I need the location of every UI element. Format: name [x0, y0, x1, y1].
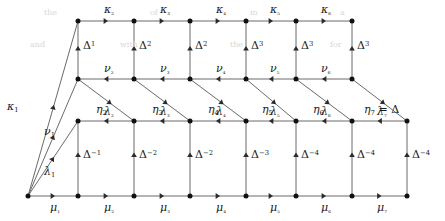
label-kappa-5: κ₅: [270, 4, 280, 17]
node-lambda-6: [350, 119, 355, 124]
node-nu-1: [76, 77, 81, 82]
label-delta-lower-6: Δ−4: [357, 149, 375, 160]
label-eta-3: η3: [152, 104, 163, 117]
bleed-text-0: the: [44, 8, 57, 17]
arrowhead-lambda-5: [269, 118, 273, 124]
arrowhead-delta-upper-3: [187, 46, 193, 50]
label-nu-3: ν₃: [160, 63, 169, 76]
label-kappa-3: κ₃: [160, 4, 170, 17]
label-mu-3: μ₃: [160, 202, 170, 215]
arrowhead-kappa-4: [216, 18, 220, 24]
arrowhead-delta-upper-1: [75, 46, 81, 50]
node-nu-4: [244, 77, 249, 82]
label-mu-5: μ₅: [270, 202, 280, 215]
node-lambda-2: [132, 119, 137, 124]
label-mu-6: μ₆: [321, 202, 331, 215]
label-mu-1: μ₁: [50, 202, 60, 215]
bleed-text-6: the: [230, 40, 243, 49]
label-nu-2: ν₂: [104, 63, 113, 76]
node-kappa-2: [132, 19, 137, 24]
arrowhead-delta-lower-5: [293, 153, 299, 157]
label-delta-lower-7: Δ−4: [412, 149, 430, 160]
node-lambda-4: [244, 119, 249, 124]
arrowhead-kappa-3: [160, 18, 164, 24]
node-lambda-1: [76, 119, 81, 124]
arrowhead-delta-upper-6: [349, 46, 355, 50]
arrowhead-nu-5: [269, 76, 273, 82]
label-delta-upper-3: Δ2: [195, 40, 207, 51]
label-delta-lower-3: Δ−2: [195, 149, 213, 160]
arrowhead-delta-lower-1: [75, 153, 81, 157]
label-kappa-4: κ₄: [216, 4, 226, 17]
arrowhead-nu-4: [216, 76, 220, 82]
arrowhead-mu-7: [377, 193, 381, 199]
node-lambda-7: [405, 119, 410, 124]
node-mu-5: [294, 194, 299, 199]
arrowhead-kappa-2: [104, 18, 108, 24]
node-nu-3: [188, 77, 193, 82]
label-mu-4: μ₄: [216, 202, 226, 215]
label-delta-upper-1: Δ1: [83, 40, 95, 51]
node-kappa-3: [188, 19, 193, 24]
arrowhead-mu-4: [216, 193, 220, 199]
label-delta-lower-5: Δ−4: [301, 149, 319, 160]
label-eta-4: η4: [208, 104, 219, 117]
node-mu-4: [244, 194, 249, 199]
label-eta-7: η7 = Δ: [364, 104, 399, 117]
label-eta-2: η2: [96, 104, 107, 117]
arrowhead-delta-lower-2: [131, 153, 137, 157]
bleed-text-4: and: [30, 40, 45, 49]
arrowhead-kappa-5: [269, 18, 273, 24]
arrowhead-delta-upper-5: [293, 46, 299, 50]
arrowhead-lambda-7: [378, 118, 382, 124]
label-mu-2: μ₂: [104, 202, 114, 215]
node-mu-2: [132, 194, 137, 199]
label-delta-upper-2: Δ2: [139, 40, 151, 51]
node-mu-6: [350, 194, 355, 199]
bleed-text-2: in: [250, 8, 258, 17]
arrowhead-lambda-2: [104, 118, 108, 124]
label-delta-lower-2: Δ−2: [139, 149, 157, 160]
node-lambda-3: [188, 119, 193, 124]
arrowhead-delta-lower-7: [404, 153, 410, 157]
arrowhead-mu-3: [160, 193, 164, 199]
arrowhead-edge-kappa-1: [50, 104, 57, 110]
bleed-text-3: a: [340, 8, 345, 17]
arrowhead-edge-lambda-1: [49, 155, 56, 162]
node-kappa-1: [76, 19, 81, 24]
arrowhead-lambda-3: [160, 118, 164, 124]
arrowhead-mu-2: [104, 193, 108, 199]
arrowhead-mu-5: [269, 193, 273, 199]
figure-canvas: theofinaandwiththefor κ₂κ₃κ₄κ₅κ₆ν₂ν₃ν₄ν₅…: [0, 0, 445, 221]
arrowhead-nu-3: [160, 76, 164, 82]
bleed-text-7: for: [330, 40, 342, 49]
node-mu-3: [188, 194, 193, 199]
label-eta-6: η6: [313, 104, 324, 117]
node-mu-1: [76, 194, 81, 199]
node-mu-7: [405, 194, 410, 199]
arrowhead-mu-6: [322, 193, 326, 199]
arrowhead-lambda-6: [322, 118, 326, 124]
label-kappa-6: κ₆: [321, 4, 331, 17]
arrowhead-nu-2: [104, 76, 108, 82]
label-delta-upper-6: Δ3: [357, 40, 369, 51]
node-kappa-5: [294, 19, 299, 24]
label-delta-upper-4: Δ3: [251, 40, 263, 51]
label-lambda-1: λ1: [44, 166, 55, 179]
node-kappa-4: [244, 19, 249, 24]
node-mu-0: [26, 194, 31, 199]
arrowhead-kappa-6: [322, 18, 326, 24]
arrowhead-mu-1: [51, 193, 55, 199]
label-kappa-1: κ1: [7, 101, 19, 114]
node-nu-5: [294, 77, 299, 82]
label-nu-4: ν₄: [216, 63, 225, 76]
arrowhead-nu-6: [322, 76, 326, 82]
arrowhead-delta-lower-3: [187, 153, 193, 157]
arrowhead-lambda-4: [216, 118, 220, 124]
label-nu-6: ν₆: [321, 63, 330, 76]
bleed-text-1: of: [150, 8, 158, 17]
bleed-text-5: with: [120, 40, 138, 49]
label-delta-upper-5: Δ3: [301, 40, 313, 51]
node-nu-6: [350, 77, 355, 82]
label-delta-lower-1: Δ−1: [83, 149, 101, 160]
